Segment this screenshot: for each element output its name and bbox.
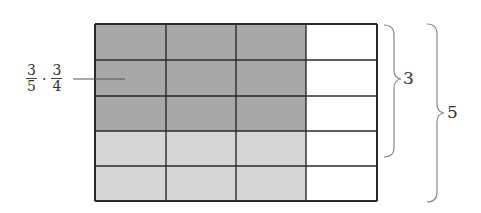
grid-cell <box>95 131 166 166</box>
grid-cell <box>306 166 377 201</box>
fraction1-denominator: 5 <box>27 79 36 94</box>
grid-cell <box>166 96 236 131</box>
grid-cell <box>166 60 236 96</box>
grid-cell <box>236 131 306 166</box>
fraction-three-fifths: 3 5 <box>26 63 37 94</box>
grid-cell <box>306 24 377 60</box>
grid-cell <box>166 24 236 60</box>
fraction1-numerator: 3 <box>26 63 37 79</box>
fraction-product-label: 3 5 · 3 4 <box>26 63 62 94</box>
brace-inner-label: 3 <box>403 68 414 88</box>
grid-cell <box>236 166 306 201</box>
grid-cell <box>95 24 166 60</box>
fraction-three-fourths: 3 4 <box>51 63 62 94</box>
area-model-diagram <box>0 0 481 213</box>
grid-cell <box>236 24 306 60</box>
grid-cell <box>95 96 166 131</box>
grid-cell <box>306 131 377 166</box>
grid-cell <box>95 60 166 96</box>
fraction2-numerator: 3 <box>51 63 62 79</box>
grid-cell <box>306 60 377 96</box>
brace-inner-icon <box>384 25 401 157</box>
grid-cell <box>306 96 377 131</box>
brace-outer-label: 5 <box>447 102 458 122</box>
grid-cell <box>166 166 236 201</box>
grid-cell <box>236 60 306 96</box>
grid-cell <box>95 166 166 201</box>
multiply-operator: · <box>42 71 46 87</box>
grid-cell <box>166 131 236 166</box>
brace-outer-icon <box>427 24 444 202</box>
fraction2-denominator: 4 <box>52 79 61 94</box>
grid-cell <box>236 96 306 131</box>
